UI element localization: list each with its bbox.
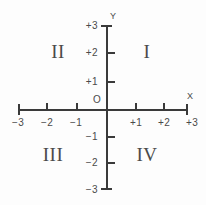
- y-tick-label-plus-1: +1: [74, 77, 98, 87]
- quadrant-3-label: III: [33, 145, 73, 164]
- y-tick-plus-2: [108, 52, 115, 54]
- y-tick-minus-1: [108, 136, 115, 138]
- x-axis-right-end-cap: [186, 104, 188, 115]
- quadrant-1-label: I: [127, 42, 167, 61]
- x-tick-plus-1: [135, 103, 137, 110]
- cartesian-plane-figure: −3 −2 −1 +1 +2 +3 +3 +2 +1 −1 −2 −3 O Y …: [0, 0, 206, 205]
- y-axis-line: [106, 25, 108, 190]
- y-axis-top-end-cap: [101, 25, 112, 27]
- y-tick-label-plus-3: +3: [74, 21, 98, 31]
- x-tick-label-minus-1: −1: [64, 118, 88, 128]
- x-tick-label-minus-2: −2: [35, 118, 59, 128]
- quadrant-2-label: II: [38, 42, 78, 61]
- x-tick-minus-2: [46, 103, 48, 110]
- x-axis-left-end-cap: [18, 104, 20, 115]
- x-axis-label: X: [187, 92, 193, 101]
- x-tick-label-plus-3: +3: [180, 118, 204, 128]
- y-tick-label-minus-1: −1: [74, 132, 98, 142]
- y-tick-label-minus-2: −2: [74, 158, 98, 168]
- y-tick-minus-2: [108, 162, 115, 164]
- y-tick-plus-1: [108, 81, 115, 83]
- origin-label: O: [93, 95, 101, 105]
- x-tick-label-plus-2: +2: [152, 118, 176, 128]
- x-tick-label-plus-1: +1: [124, 118, 148, 128]
- x-tick-minus-1: [76, 103, 78, 110]
- y-tick-label-minus-3: −3: [74, 185, 98, 195]
- x-tick-label-minus-3: −3: [6, 118, 30, 128]
- x-tick-plus-2: [163, 103, 165, 110]
- quadrant-4-label: IV: [127, 145, 167, 164]
- y-axis-bottom-end-cap: [101, 188, 112, 190]
- y-axis-label: Y: [110, 12, 116, 21]
